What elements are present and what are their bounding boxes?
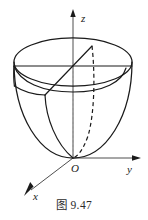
z-axis-arrowhead (70, 9, 75, 17)
x-axis-line (31, 158, 73, 190)
y-axis-arrowhead (132, 155, 141, 161)
y-axis-label: y (126, 163, 132, 175)
z-axis-label: z (80, 12, 86, 24)
interior-generator-curve-left (45, 95, 73, 158)
paraboloid-diagram: z y x O (0, 0, 148, 220)
figure-container: z y x O 图 9.47 (0, 0, 148, 220)
axes-group (24, 9, 141, 196)
cut-face-left-edge (14, 66, 15, 86)
figure-caption: 图 9.47 (0, 196, 148, 212)
cut-plane-slant-line (45, 46, 92, 95)
origin-label: O (71, 162, 79, 174)
